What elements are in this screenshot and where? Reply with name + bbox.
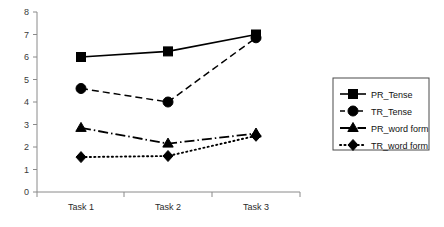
- circle-marker-icon: [251, 33, 261, 43]
- legend-label: TR_word form: [371, 141, 428, 151]
- y-tick-label: 4: [24, 97, 29, 107]
- legend-item-tr-word-form[interactable]: TR_word form: [340, 140, 428, 151]
- x-axis-category-labels: Task 1 Task 2 Task 3: [68, 202, 269, 212]
- x-tick-label: Task 2: [155, 202, 181, 212]
- diamond-marker-icon: [76, 152, 86, 163]
- legend-item-pr-tense[interactable]: PR_Tense: [340, 90, 413, 100]
- legend-label: PR_Tense: [371, 90, 413, 100]
- line-chart-figure: 0 1 2 3 4 5 6 7 8 Task: [0, 0, 444, 227]
- circle-marker-icon: [163, 97, 173, 107]
- x-axis-ticks: [37, 192, 300, 197]
- y-tick-label: 5: [24, 75, 29, 85]
- y-tick-label: 3: [24, 120, 29, 130]
- y-tick-label: 6: [24, 52, 29, 62]
- diamond-marker-icon: [163, 151, 173, 162]
- legend-item-pr-word-form[interactable]: PR_word form: [340, 123, 429, 134]
- circle-marker-icon: [76, 84, 86, 94]
- series-pr-tense: [77, 30, 261, 62]
- square-marker-icon: [349, 90, 358, 99]
- y-tick-label: 0: [24, 187, 29, 197]
- y-tick-label: 2: [24, 142, 29, 152]
- legend-label: PR_word form: [371, 124, 429, 134]
- series-pr-word-form: [76, 122, 261, 147]
- circle-marker-icon: [348, 106, 358, 116]
- chart-plot-area: 0 1 2 3 4 5 6 7 8 Task: [0, 0, 444, 227]
- square-marker-icon: [164, 47, 173, 56]
- legend-item-tr-tense[interactable]: TR_Tense: [340, 106, 412, 117]
- x-tick-label: Task 1: [68, 202, 94, 212]
- triangle-marker-icon: [76, 122, 86, 131]
- square-marker-icon: [77, 53, 86, 62]
- y-tick-label: 7: [24, 30, 29, 40]
- chart-legend: PR_Tense TR_Tense PR_word form TR_word f…: [333, 78, 429, 151]
- diamond-marker-icon: [251, 130, 261, 141]
- legend-label: TR_Tense: [371, 107, 412, 117]
- y-axis-ticks: 0 1 2 3 4 5 6 7 8: [24, 7, 37, 197]
- y-tick-label: 8: [24, 7, 29, 17]
- x-tick-label: Task 3: [243, 202, 269, 212]
- y-tick-label: 1: [24, 165, 29, 175]
- series-tr-tense: [76, 33, 261, 107]
